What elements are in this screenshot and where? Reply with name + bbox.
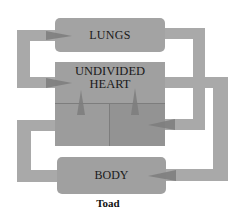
flow-arrows [0,0,242,218]
arrow-icon [77,90,85,115]
arrow-icon [46,78,72,88]
arrow-icon [148,170,176,181]
arrow-icon [131,88,139,115]
arrow-icon [148,119,175,130]
diagram-caption: Toad [0,197,216,209]
arrow-icon [46,31,72,40]
